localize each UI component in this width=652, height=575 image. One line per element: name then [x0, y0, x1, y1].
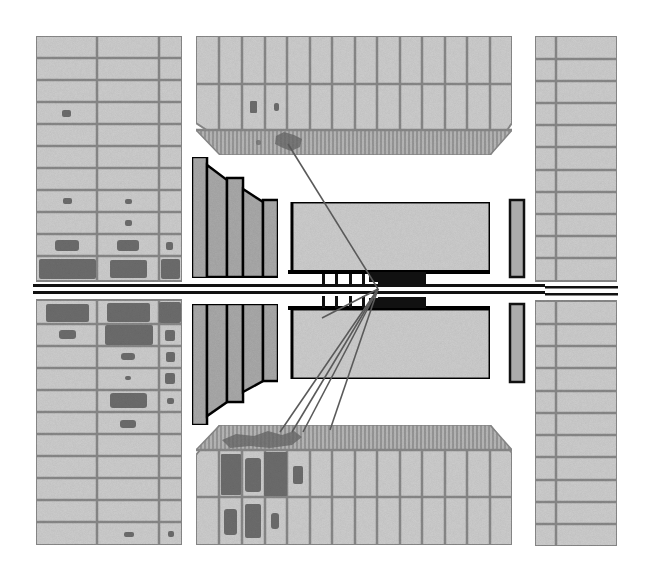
inner-tracker-upper [288, 202, 490, 274]
forward-endcap-lower [192, 304, 278, 425]
top-barrel-calorimeter [196, 36, 512, 155]
detector-diagram [0, 0, 652, 575]
beam-pipe [33, 284, 618, 296]
right-small-detector-lower [510, 304, 524, 382]
right-small-detector-upper [510, 200, 524, 277]
bottom-barrel-calorimeter [196, 425, 512, 545]
forward-endcap-upper [192, 157, 278, 278]
inner-tracker-lower [288, 306, 490, 379]
right-muon-calorimeter [535, 36, 617, 546]
